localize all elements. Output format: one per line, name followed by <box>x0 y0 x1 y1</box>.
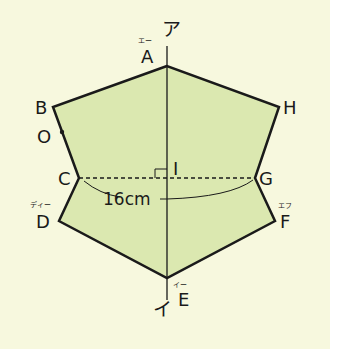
vertex-g-label: G <box>259 168 273 189</box>
axis-label-bottom: イ <box>153 298 172 320</box>
vertex-a-ruby: エー <box>138 37 152 45</box>
octagon-diagram: ア イ エー A B O C ディー D イー E エフ F G H I 16c… <box>0 0 330 349</box>
polygon-abcdefgh <box>53 66 279 278</box>
vertex-f-ruby: エフ <box>278 202 292 210</box>
vertex-d-label: D <box>36 211 50 232</box>
axis-label-top: ア <box>162 18 181 40</box>
point-o-dot <box>60 130 64 134</box>
measurement-label: 16cm <box>103 189 151 209</box>
vertex-e-ruby: イー <box>173 281 187 289</box>
vertex-c-label: C <box>58 168 71 189</box>
vertex-d-ruby: ディー <box>30 200 51 209</box>
vertex-e-label: E <box>178 289 189 310</box>
point-i-label: I <box>173 158 178 179</box>
vertex-a-label: A <box>141 46 154 67</box>
vertex-b-label: B <box>35 97 47 118</box>
diagram-canvas: ア イ エー A B O C ディー D イー E エフ F G H I 16c… <box>0 0 330 349</box>
vertex-h-label: H <box>283 97 297 118</box>
vertex-f-label: F <box>280 211 290 232</box>
point-o-label: O <box>37 126 51 147</box>
